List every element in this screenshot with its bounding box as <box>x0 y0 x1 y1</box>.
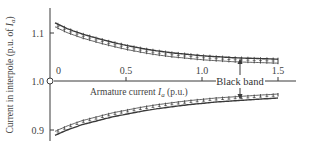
origin-marker <box>47 78 53 84</box>
y-axis-title: Current in interpole (p.u. of Ia) <box>5 16 17 133</box>
x-axis-title-prefix: Armature current <box>90 87 158 97</box>
y-tick-label-1-1: 1.1 <box>32 28 45 39</box>
x-tick-label-0: 0 <box>56 65 61 76</box>
x-tick-label-1-0: 1.0 <box>196 65 209 76</box>
y-tick-label-1-0: 1.0 <box>32 76 45 87</box>
x-tick-label-1-5: 1.5 <box>272 65 285 76</box>
x-axis-title: Armature current Ia (p.u.) <box>90 87 188 99</box>
interpole-current-chart: 1.1 1.0 0.9 Current in interpole (p.u. o… <box>0 0 310 149</box>
lower-band-curve <box>55 93 278 135</box>
black-band-label: Black band <box>216 76 264 87</box>
x-tick-label-0-5: 0.5 <box>120 65 133 76</box>
y-axis-title-suffix: ) <box>5 16 16 19</box>
y-axis-title-prefix: Current in interpole (p.u. of <box>5 26 16 133</box>
x-axis-title-suffix: (p.u.) <box>165 87 188 98</box>
upper-band-curve <box>55 23 278 64</box>
y-tick-label-0-9: 0.9 <box>32 125 45 136</box>
